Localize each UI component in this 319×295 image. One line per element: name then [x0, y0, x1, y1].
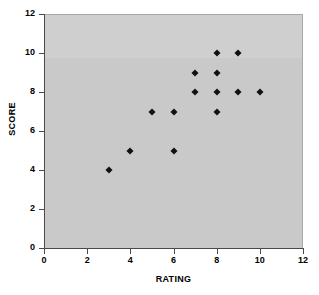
x-tick-label-8: 8 — [202, 256, 232, 265]
y-tick-12 — [39, 14, 44, 15]
y-tick-10 — [39, 53, 44, 54]
x-tick-label-10: 10 — [245, 256, 275, 265]
x-tick-label-0: 0 — [29, 256, 59, 265]
x-tick-4 — [130, 249, 131, 254]
plot-area — [44, 14, 303, 248]
x-tick-label-4: 4 — [115, 256, 145, 265]
y-tick-label-2: 2 — [0, 204, 35, 213]
x-tick-2 — [87, 249, 88, 254]
x-tick-8 — [217, 249, 218, 254]
y-tick-label-12: 12 — [0, 9, 35, 18]
y-tick-label-6: 6 — [0, 126, 35, 135]
x-tick-12 — [303, 249, 304, 254]
x-tick-label-12: 12 — [288, 256, 318, 265]
x-tick-0 — [44, 249, 45, 254]
y-tick-4 — [39, 170, 44, 171]
x-tick-label-2: 2 — [72, 256, 102, 265]
x-tick-10 — [260, 249, 261, 254]
scatter-chart: 024681012 024681012 RATING SCORE — [0, 0, 319, 295]
plot-background-band — [44, 15, 302, 58]
y-tick-8 — [39, 92, 44, 93]
y-axis-title: SCORE — [7, 89, 17, 149]
y-tick-label-10: 10 — [0, 48, 35, 57]
y-tick-6 — [39, 131, 44, 132]
y-tick-label-0: 0 — [0, 243, 35, 252]
x-tick-6 — [174, 249, 175, 254]
y-axis-line — [44, 14, 45, 249]
y-tick-label-4: 4 — [0, 165, 35, 174]
y-tick-2 — [39, 209, 44, 210]
y-tick-label-8: 8 — [0, 87, 35, 96]
x-tick-label-6: 6 — [159, 256, 189, 265]
x-axis-title: RATING — [44, 274, 303, 284]
